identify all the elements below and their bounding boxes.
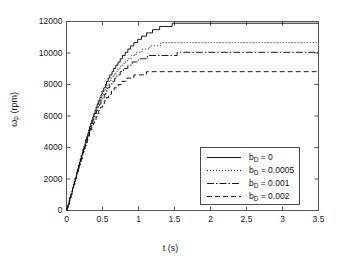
x-tick-label-1: 0.5 <box>83 214 123 224</box>
legend-label-0: bD = 0 <box>243 152 273 163</box>
legend-item-2: bD = 0.001 <box>201 177 299 190</box>
legend: bD = 0bD = 0.0005bD = 0.001bD = 0.002 <box>200 147 300 205</box>
legend-swatch-2 <box>205 178 243 189</box>
legend-label-3: bD = 0.002 <box>243 191 289 202</box>
legend-item-1: bD = 0.0005 <box>201 164 299 177</box>
legend-item-0: bD = 0 <box>201 151 299 164</box>
legend-label-2: bD = 0.001 <box>243 178 289 189</box>
y-tick-label-0: 0 <box>19 205 63 215</box>
figure: ωp (rpm) t (s) bD = 0bD = 0.0005bD = 0.0… <box>0 0 341 267</box>
legend-item-3: bD = 0.002 <box>201 190 299 203</box>
y-axis-label-base: ω <box>9 120 19 127</box>
y-tick-label-4: 8000 <box>19 79 63 89</box>
y-tick-label-2: 4000 <box>19 142 63 152</box>
chart-canvas <box>0 0 341 267</box>
x-tick-label-0: 0 <box>47 214 87 224</box>
legend-label-1: bD = 0.0005 <box>243 165 294 176</box>
legend-swatch-1 <box>205 165 243 176</box>
legend-swatch-0 <box>205 152 243 163</box>
y-tick-label-6: 12000 <box>19 16 63 26</box>
x-tick-label-4: 2 <box>191 214 231 224</box>
legend-swatch-3 <box>205 191 243 202</box>
x-tick-label-7: 3.5 <box>299 214 339 224</box>
x-axis-label-text: t (s) <box>163 243 179 253</box>
x-tick-label-2: 1 <box>119 214 159 224</box>
y-tick-label-1: 2000 <box>19 174 63 184</box>
x-axis-label: t (s) <box>0 243 341 253</box>
y-tick-label-5: 10000 <box>19 48 63 58</box>
y-tick-label-3: 6000 <box>19 111 63 121</box>
y-axis-label-unit: (rpm) <box>9 92 19 116</box>
x-tick-label-6: 3 <box>263 214 303 224</box>
x-tick-label-5: 2.5 <box>227 214 267 224</box>
x-tick-label-3: 1.5 <box>155 214 195 224</box>
